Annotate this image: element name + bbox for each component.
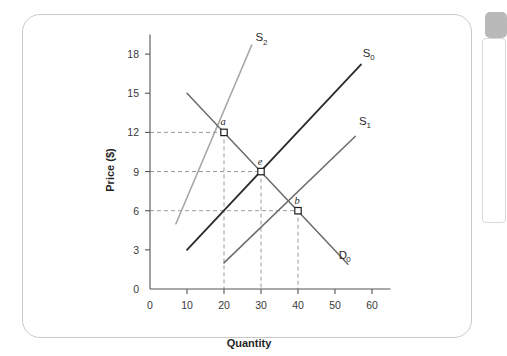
figure-card xyxy=(22,14,472,338)
right-side-panel-sliver[interactable] xyxy=(482,38,506,223)
x-axis-title: Quantity xyxy=(227,337,272,349)
right-side-tab-chip[interactable] xyxy=(485,12,507,38)
